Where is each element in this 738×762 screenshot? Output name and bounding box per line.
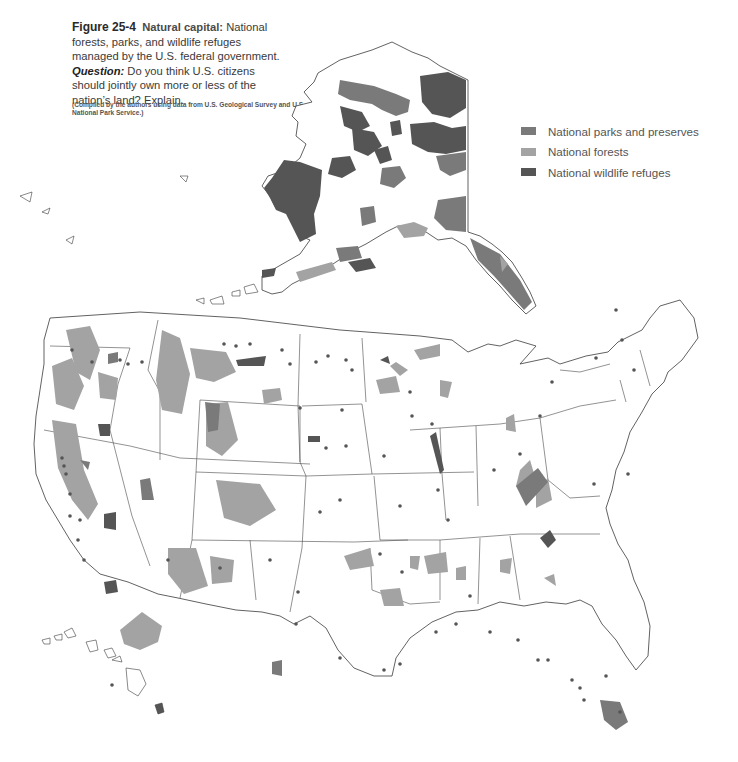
alaska-map xyxy=(20,42,536,314)
us-federal-lands-map xyxy=(0,0,738,762)
contiguous-us-map xyxy=(34,300,698,730)
